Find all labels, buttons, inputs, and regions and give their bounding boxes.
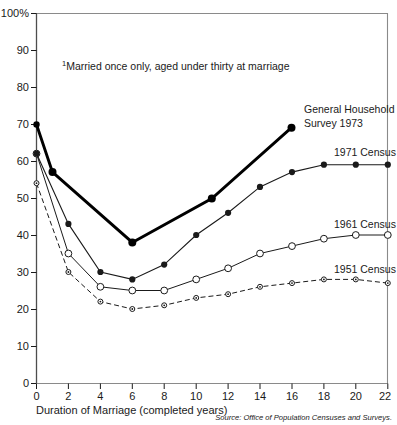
data-point (225, 210, 231, 216)
y-tick-label-0: 0 (23, 377, 29, 389)
x-tick-label-16: 16 (286, 390, 298, 402)
y-tick-label-10: 10 (17, 340, 29, 352)
data-point (353, 162, 359, 168)
x-axis-tick-labels: 0 2 4 6 8 10 12 14 16 18 20 22 (33, 390, 391, 402)
data-point (33, 151, 39, 157)
data-point (97, 269, 103, 275)
data-point (65, 221, 71, 227)
data-point-core (36, 182, 38, 184)
data-point (129, 287, 136, 294)
x-tick-label-6: 6 (129, 390, 135, 402)
data-point (193, 232, 199, 238)
data-point (225, 265, 232, 272)
data-point (288, 124, 296, 132)
data-point (257, 250, 264, 257)
data-point-core (100, 301, 102, 303)
y-tick-label-90: 90 (17, 44, 29, 56)
series-ghs-1973-markers (33, 121, 295, 246)
data-point (49, 168, 57, 176)
data-point (129, 276, 135, 282)
data-point-core (195, 297, 197, 299)
x-tick-label-4: 4 (97, 390, 103, 402)
x-axis-ticks (37, 384, 388, 390)
series-inline-labels: General Household Survey 1973 1971 Censu… (304, 103, 396, 275)
x-tick-label-18: 18 (318, 390, 330, 402)
y-axis-ticks (31, 14, 37, 384)
data-point (161, 262, 167, 268)
data-point (352, 232, 359, 239)
data-point-core (323, 279, 325, 281)
y-tick-label-40: 40 (17, 229, 29, 241)
data-point-core (163, 304, 165, 306)
x-axis-title: Duration of Marriage (completed years) (36, 404, 227, 416)
data-point (257, 184, 263, 190)
x-tick-label-20: 20 (350, 390, 362, 402)
data-point (384, 232, 391, 239)
x-tick-label-14: 14 (254, 390, 266, 402)
y-tick-label-80: 80 (17, 81, 29, 93)
series-label-ghs-1973-line2: Survey 1973 (304, 117, 363, 129)
x-tick-label-2: 2 (65, 390, 71, 402)
y-tick-label-50: 50 (17, 192, 29, 204)
data-point-core (259, 286, 261, 288)
y-tick-label-30: 30 (17, 266, 29, 278)
data-point-core (291, 282, 293, 284)
data-point (161, 287, 168, 294)
x-tick-label-12: 12 (222, 390, 234, 402)
data-point (385, 162, 391, 168)
series-label-1961-census: 1961 Census (334, 218, 396, 230)
series-label-1971-census: 1971 Census (334, 146, 396, 158)
series-label-1951-census: 1951 Census (334, 263, 396, 275)
data-point (289, 243, 296, 250)
chart-svg: 100% 90 80 70 60 50 40 30 20 10 0 0 2 4 … (0, 0, 397, 425)
data-point-core (68, 271, 70, 273)
data-point (128, 238, 136, 246)
data-point (289, 169, 295, 175)
y-tick-label-100: 100% (1, 7, 29, 19)
x-tick-label-22: 22 (379, 390, 391, 402)
x-tick-label-8: 8 (161, 390, 167, 402)
data-point (97, 283, 104, 290)
y-axis-tick-labels: 100% 90 80 70 60 50 40 30 20 10 0 (1, 7, 29, 389)
y-tick-label-70: 70 (17, 118, 29, 130)
data-point (321, 162, 327, 168)
y-tick-label-60: 60 (17, 155, 29, 167)
annotation-text-group: 1Married once only, aged under thirty at… (62, 59, 290, 72)
data-point (321, 235, 328, 242)
chart-figure: 100% 90 80 70 60 50 40 30 20 10 0 0 2 4 … (0, 0, 397, 425)
source-note: Source: Office of Population Censuses an… (215, 413, 392, 422)
data-point (65, 250, 72, 257)
series-1971-census-line (37, 154, 388, 280)
y-tick-label-20: 20 (17, 303, 29, 315)
data-point-core (227, 293, 229, 295)
x-tick-label-10: 10 (190, 390, 202, 402)
data-point-core (355, 279, 357, 281)
x-tick-label-0: 0 (33, 390, 39, 402)
series-ghs-1973-line (37, 125, 292, 243)
series-label-ghs-1973-line1: General Household (304, 103, 395, 115)
data-point (193, 276, 200, 283)
data-point (33, 121, 39, 127)
annotation-label: Married once only, aged under thirty at … (66, 60, 289, 72)
chart-annotation: 1Married once only, aged under thirty at… (62, 59, 290, 72)
data-point-core (387, 282, 389, 284)
data-point-core (131, 308, 133, 310)
data-point (208, 195, 216, 203)
series-general-household-survey-1973 (33, 121, 295, 246)
